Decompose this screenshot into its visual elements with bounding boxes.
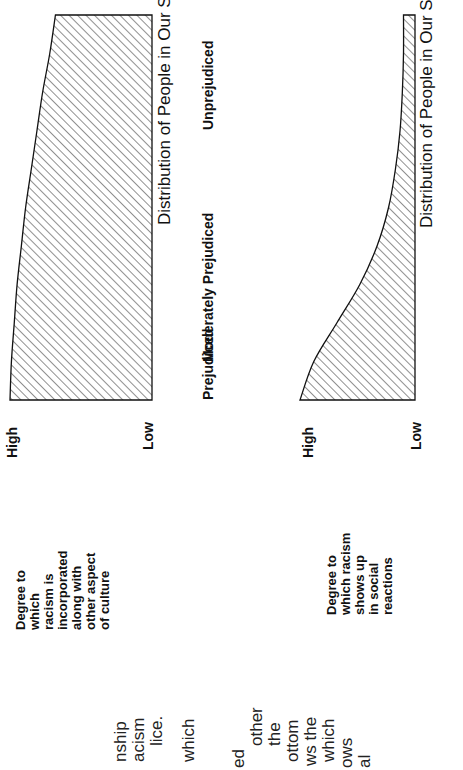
charts-layer <box>0 0 463 770</box>
bottom-area-chart <box>300 15 415 400</box>
area-series-1 <box>300 15 415 400</box>
rotated-page: nship acism lice. which ed other the ott… <box>0 0 463 770</box>
area-series-0 <box>10 15 152 400</box>
top-area-chart <box>10 15 152 400</box>
